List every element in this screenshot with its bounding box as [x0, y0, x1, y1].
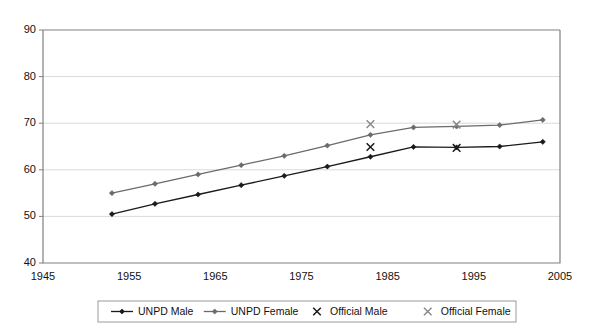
x-axis-tick-labels: 1945195519651975198519952005 — [31, 270, 572, 282]
y-axis-tick-labels: 405060708090 — [24, 23, 36, 268]
data-point — [196, 192, 201, 197]
y-tick-label-70: 70 — [24, 116, 36, 128]
data-point — [540, 139, 545, 144]
data-point — [367, 120, 375, 128]
chart-legend: UNPD MaleUNPD FemaleOfficial MaleOfficia… — [98, 301, 516, 322]
data-point — [196, 172, 201, 177]
data-point — [282, 173, 287, 178]
x-tick-label-2005: 2005 — [548, 270, 572, 282]
data-series-layer — [109, 117, 545, 216]
data-point — [109, 211, 114, 216]
data-point — [497, 144, 502, 149]
series-line — [112, 142, 543, 214]
legend-label: Official Male — [330, 305, 388, 317]
data-point — [368, 132, 373, 137]
legend-label: UNPD Female — [231, 305, 299, 317]
x-tick-label-1985: 1985 — [375, 270, 399, 282]
legend-label: Official Female — [441, 305, 511, 317]
x-tick-label-1965: 1965 — [203, 270, 227, 282]
x-tick-label-1975: 1975 — [289, 270, 313, 282]
data-point — [325, 143, 330, 148]
data-point — [239, 183, 244, 188]
legend-label: UNPD Male — [138, 305, 194, 317]
data-point — [239, 163, 244, 168]
data-point — [152, 181, 157, 186]
series-unpd-male — [109, 139, 545, 216]
series-line — [112, 120, 543, 193]
y-tick-label-80: 80 — [24, 70, 36, 82]
data-point — [368, 154, 373, 159]
data-point — [282, 153, 287, 158]
data-point — [411, 144, 416, 149]
x-tick-label-1955: 1955 — [117, 270, 141, 282]
y-tick-label-60: 60 — [24, 163, 36, 175]
chart-container: 405060708090 194519551965197519851995200… — [0, 0, 603, 335]
data-point — [540, 117, 545, 122]
data-point — [152, 201, 157, 206]
data-point — [411, 125, 416, 130]
x-tick-label-1945: 1945 — [31, 270, 55, 282]
series-unpd-female — [109, 117, 545, 195]
line-chart: 405060708090 194519551965197519851995200… — [0, 0, 603, 335]
x-tick-label-1995: 1995 — [462, 270, 486, 282]
y-tick-label-50: 50 — [24, 209, 36, 221]
y-tick-label-40: 40 — [24, 256, 36, 268]
data-point — [325, 164, 330, 169]
data-point — [367, 143, 375, 151]
data-point — [109, 191, 114, 196]
y-tick-label-90: 90 — [24, 23, 36, 35]
